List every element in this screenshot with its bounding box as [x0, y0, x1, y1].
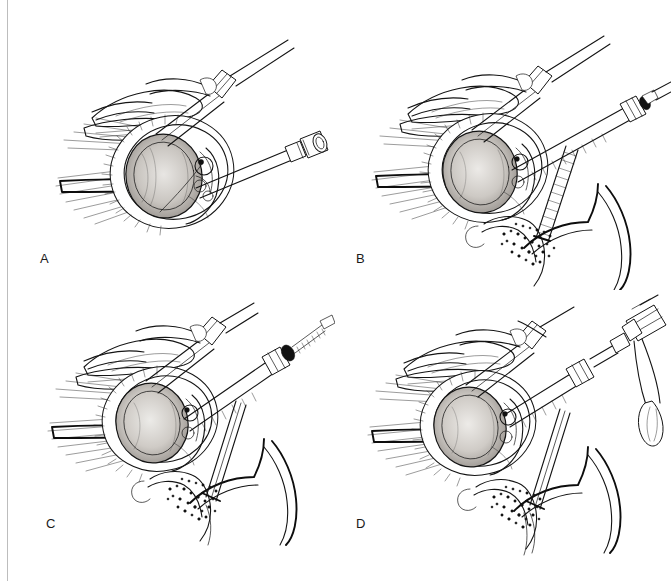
figure-panel-d: D	[336, 291, 671, 581]
panel-label-d: D	[356, 517, 366, 530]
panel-d-illustration	[336, 291, 671, 581]
figure-panel-b: B	[336, 0, 671, 290]
figure-panel-c: C	[0, 291, 335, 581]
surgical-mallet-d	[622, 295, 666, 446]
panel-label-a: A	[40, 252, 49, 265]
panel-label-b: B	[356, 252, 365, 265]
panel-b-illustration	[336, 0, 671, 290]
panel-c-illustration	[0, 291, 335, 581]
figure-panel-a: A	[0, 0, 335, 290]
figure-page: A	[0, 0, 671, 581]
panel-label-c: C	[46, 517, 56, 530]
panel-a-illustration	[0, 0, 335, 290]
